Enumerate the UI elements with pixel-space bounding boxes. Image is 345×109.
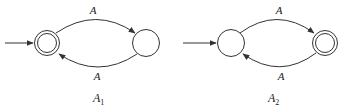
transition-a2-p1-p0	[243, 53, 316, 67]
caption-a1: A1	[92, 91, 104, 107]
state-a1-q1	[133, 30, 160, 57]
state-a1-q0-accepting	[35, 31, 60, 56]
automaton-a1: A A A1	[5, 4, 160, 107]
transition-label-a2-top: A	[275, 4, 283, 16]
transition-a2-p0-p1	[240, 20, 314, 34]
transition-a1-q1-q0	[59, 54, 137, 67]
transition-label-a1-bottom: A	[93, 70, 101, 82]
state-a2-p1-accepting	[313, 31, 338, 56]
automata-diagram: A A A1 A A A2	[0, 0, 345, 109]
transition-label-a1-top: A	[89, 4, 97, 16]
caption-a2: A2	[267, 91, 279, 107]
transition-a1-q0-q1	[56, 20, 135, 34]
transition-label-a2-bottom: A	[277, 70, 285, 82]
automaton-a2: A A A2	[183, 4, 338, 107]
state-a2-p0	[218, 30, 245, 57]
